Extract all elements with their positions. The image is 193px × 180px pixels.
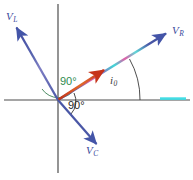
phase-angle-arc bbox=[130, 59, 141, 100]
label-vr-base: V bbox=[172, 24, 179, 36]
label-vl-sub: L bbox=[13, 15, 18, 24]
label-angle-top: 90° bbox=[60, 76, 77, 87]
phasor-diagram-figure: VL VR VC i0 90° 90° bbox=[0, 0, 193, 180]
vector-vl bbox=[17, 28, 59, 101]
label-i0-sub: 0 bbox=[113, 79, 117, 88]
label-vc-base: V bbox=[86, 144, 93, 156]
label-vr-sub: R bbox=[179, 29, 184, 38]
label-vl: VL bbox=[6, 7, 17, 24]
label-vr: VR bbox=[172, 21, 184, 38]
label-vl-base: V bbox=[6, 10, 13, 22]
label-vc: VC bbox=[86, 141, 98, 158]
label-vc-sub: C bbox=[93, 149, 99, 158]
label-i0: i0 bbox=[110, 71, 117, 88]
label-angle-bottom: 90° bbox=[68, 100, 85, 111]
